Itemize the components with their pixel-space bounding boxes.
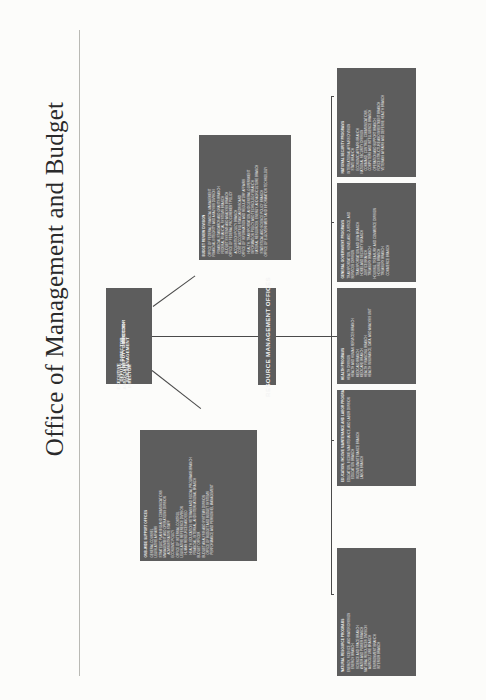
page-margin-rule [79,30,80,676]
list-item: INCOME MAINTENANCE BRANCH [355,394,359,482]
list-item: HEALTH AND HUMAN SERVICES BRANCH [350,292,354,380]
list-item: MEDICAID BRANCH [355,292,359,380]
list-item: COMMERCE BRANCH [385,187,389,278]
list-item: ECONOMIC POLICY [170,434,174,557]
budget-review-list: OFFICE OF FEDERAL FINANCIAL MANAGEMENT F… [208,139,268,256]
list-item: HEALTH DIVISION [346,292,350,380]
connector-division-trunk [331,96,332,594]
connector-tick [331,336,334,337]
list-item: MEDICARE BRANCH [359,292,363,380]
rmo-division-list: INTERNATIONAL AFFAIRS DIVISION STATE BRA… [346,72,385,173]
rmo-division-list: EDUCATION, INCOME MAINTENANCE, AND LABOR… [346,394,363,482]
list-item: HEALTH FINANCING BRANCH [363,292,367,380]
list-item: HOUSING BRANCH [376,187,380,278]
list-item: INTERNATIONAL AFFAIRS DIVISION [346,72,350,173]
rmo-division-header: HEALTH PROGRAMS [340,292,344,380]
list-item: LABOR BRANCH [359,394,363,482]
list-item: HOMELAND SECURITY BRANCH [359,187,363,278]
document-page: Office of Management and Budget DIRECTOR… [0,0,486,700]
list-item: COMPUTERS AND INTELLIGENCE BRANCH [367,72,371,173]
list-item: PERFORMANCE AND PERSONNEL MANAGEMENT [209,434,213,557]
list-item: STRATEGIC PLANNING AND COMMUNICATIONS [158,434,162,557]
list-item: MANAGEMENT AND OPERATIONS DIVISION [162,434,166,557]
list-item: TRANSPORTATION AND GSA BRANCH [355,187,359,278]
connector-leadership-to-rmo [152,336,258,337]
list-item: EDUCATION BRANCH [350,394,354,482]
list-item: ENVIRONMENT BRANCH [372,552,376,672]
list-item: OFFICE OF INTERNAL CONTROL [175,434,179,557]
rmo-division-list: HEALTH DIVISION HEALTH AND HUMAN SERVICE… [346,292,372,380]
rmo-division-header: NATIONAL SECURITY PROGRAMS [340,72,344,173]
list-item: BUDGET OFFICER [196,434,200,557]
rmo-division-list: TRANSPORTATION, HOMELAND, JUSTICE, AND S… [346,187,389,278]
list-item: FORCE STRUCTURE AND INVESTMENT BRANCH [376,72,380,173]
connector-exec-to-omb-wide [152,370,201,409]
list-item: ADMINISTRATIVE STAFF [166,434,170,557]
list-item: COMMAND, CONTROL, COMMUNICATIONS, [363,72,367,173]
list-item: NATIONAL SECURITY DIVISION [359,72,363,173]
list-item: TREASURY BRANCH [380,187,384,278]
list-item: OFFICE OF BUDGET AND BUDGET SYSTEMS [205,434,209,557]
list-item: SERVICES DIVISION [350,187,354,278]
list-item: HUMAN RESOURCES AND EEO [183,434,187,557]
rmo-division-header: EDUCATION, INCOME MAINTENANCE AND LABOR … [340,394,344,482]
list-item: TREASURY BRANCH [367,187,371,278]
connector-tick [331,222,334,223]
connector-exec-to-budget-review [153,276,196,307]
list-item: OFFICE OF E-GOVERNMENT AND INFORMATION T… [264,139,268,256]
omb-wide-support-offices-box: OMB-WIDE SUPPORT OFFICES GENERAL COUNSEL… [140,430,257,561]
connector-tick [331,96,334,97]
list-item: LEGISLATIVE REFERENCE DIVISION [179,434,183,557]
list-item: JUSTICE BRANCH [363,187,367,278]
omb-wide-list: GENERAL COUNSEL LEGISLATIVE AFFAIRS STRA… [149,434,213,557]
page-title: Office of Management and Budget [41,69,69,489]
list-item: HEALTH INSURANCE, DATA, AND ANALYSIS UNI… [367,292,371,380]
list-item: GENERAL COUNSEL [149,434,153,557]
rmo-division-list: ENERGY, SCIENCE, AND WATER DIVISION ENER… [346,552,380,672]
list-item: OPERATION AND SUPPORT BRANCH [372,72,376,173]
list-item: EDUCATION, INCOME MAINTENANCE, AND LABOR… [346,394,350,482]
list-item: FINANCIAL, INTERNAL, AND INTERNATIONAL B… [192,434,196,557]
leadership-item-executive-associate-director: EXECUTIVE ASSOCIATE DIRECTOR [116,345,133,407]
rmo-division-education-income-labor-box: EDUCATION, INCOME MAINTENANCE AND LABOR … [337,390,416,486]
list-item: BUDGET ANALYSIS AND SYSTEMS DIVISION [201,434,205,557]
rmo-division-national-security-box: NATIONAL SECURITY PROGRAMS INTERNATIONAL… [337,68,416,177]
rmo-division-general-government-box: GENERAL GOVERNMENT PROGRAMS TRANSPORTATI… [337,183,416,282]
budget-review-division-box: BUDGET REVIEW DIVISION OFFICE OF FEDERAL… [199,135,291,260]
rmo-label: RESOURCE MANAGEMENT OFFICES [264,277,271,397]
budget-review-header: BUDGET REVIEW DIVISION [202,139,206,256]
list-item: NATURAL RESOURCES DIVISION [363,552,367,672]
list-item: SCIENCE AND SPACE BRANCH [355,552,359,672]
rmo-division-header: NATURAL RESOURCE PROGRAMS [340,552,344,672]
connector-rmo-to-trunk [276,336,337,337]
resource-management-offices-label-box: RESOURCE MANAGEMENT OFFICES [258,288,276,385]
list-item: STATE BRANCH [350,72,354,173]
list-item: INTERIOR BRANCH [376,552,380,672]
rmo-division-header: GENERAL GOVERNMENT PROGRAMS [340,187,344,278]
connector-tick [331,594,334,595]
list-item: AGRICULTURE BRANCH [367,552,371,672]
list-item: TRANSPORTATION, HOMELAND, JUSTICE, AND [346,187,350,278]
connector-tick [331,440,334,441]
list-item: LEGISLATIVE AFFAIRS [153,434,157,557]
list-item: VETERANS AFFAIRS AND DEFENSE HEALTH BRAN… [380,72,384,173]
list-item: HOUSING, TREASURY, AND COMMERCE DIVISION [372,187,376,278]
rmo-division-natural-resource-box: NATURAL RESOURCE PROGRAMS ENERGY, SCIENC… [337,548,416,676]
list-item: ENERGY, SCIENCE, AND WATER DIVISION [346,552,350,672]
list-item: ECONOMIC AFFAIRS BRANCH [355,72,359,173]
leadership-box: DIRECTOR DEPUTY DIRECTOR DEPUTY DIRECTOR… [106,288,152,384]
list-item: WATER AND POWER BRANCH [359,552,363,672]
omb-wide-header: OMB-WIDE SUPPORT OFFICES [143,434,147,557]
list-item: ENERGY BRANCH [350,552,354,672]
rmo-division-health-box: HEALTH PROGRAMS HEALTH DIVISION HEALTH A… [337,288,416,384]
list-item: HEALTH, EDUCATION, VETERANS AND SOCIAL P… [188,434,192,557]
